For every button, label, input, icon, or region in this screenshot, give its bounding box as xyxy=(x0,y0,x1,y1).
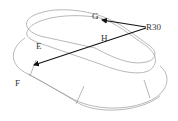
label-e: E xyxy=(36,41,42,51)
label-g: G xyxy=(92,11,99,21)
label-f: F xyxy=(15,78,20,88)
fillet-inner-edge xyxy=(27,16,156,73)
arrow-r30-to-g xyxy=(102,20,146,27)
label-r30: R30 xyxy=(146,22,162,32)
seam-line-right xyxy=(144,80,150,98)
obround-fillet-diagram: G R30 H E F xyxy=(0,0,178,121)
seam-line-left xyxy=(30,60,36,76)
arrow-r30-to-e xyxy=(34,28,146,65)
seam-line-middle xyxy=(76,86,84,104)
top-face-outline xyxy=(27,10,155,63)
label-h: H xyxy=(101,33,108,43)
